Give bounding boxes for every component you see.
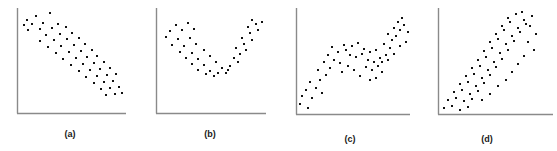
data-point bbox=[505, 43, 507, 45]
data-point bbox=[485, 56, 487, 58]
data-point bbox=[495, 66, 497, 68]
data-point bbox=[483, 50, 485, 52]
data-point bbox=[523, 55, 525, 57]
data-point bbox=[521, 11, 523, 13]
panel-d-axes bbox=[0, 0, 557, 120]
data-point bbox=[443, 107, 445, 109]
data-point bbox=[511, 71, 513, 73]
data-point bbox=[495, 33, 497, 35]
data-point bbox=[459, 83, 461, 85]
data-point bbox=[481, 99, 483, 101]
data-point bbox=[479, 65, 481, 67]
data-point bbox=[513, 40, 515, 42]
data-point bbox=[477, 90, 479, 92]
data-point bbox=[503, 29, 505, 31]
data-point bbox=[493, 61, 495, 63]
data-point bbox=[481, 77, 483, 79]
data-point bbox=[475, 85, 477, 87]
data-point bbox=[531, 15, 533, 17]
scatterplot-figure: (a) (b) (c) (d) bbox=[0, 0, 557, 151]
data-point bbox=[535, 33, 537, 35]
data-point bbox=[461, 89, 463, 91]
data-point bbox=[499, 52, 501, 54]
data-point bbox=[451, 105, 453, 107]
data-point bbox=[471, 98, 473, 100]
panel-d bbox=[0, 0, 557, 151]
data-point bbox=[517, 27, 519, 29]
data-point bbox=[501, 58, 503, 60]
data-point bbox=[483, 82, 485, 84]
data-point bbox=[467, 81, 469, 83]
data-point bbox=[501, 25, 503, 27]
panel-d-label: (d) bbox=[417, 134, 557, 144]
data-point bbox=[517, 63, 519, 65]
data-point bbox=[515, 13, 517, 15]
data-point bbox=[477, 59, 479, 61]
data-point bbox=[489, 74, 491, 76]
data-point bbox=[455, 97, 457, 99]
data-point bbox=[523, 19, 525, 21]
data-point bbox=[505, 79, 507, 81]
data-point bbox=[519, 31, 521, 33]
data-point bbox=[509, 21, 511, 23]
data-point bbox=[469, 93, 471, 95]
data-point bbox=[491, 47, 493, 49]
data-point bbox=[497, 38, 499, 40]
data-point bbox=[527, 41, 529, 43]
data-point bbox=[497, 85, 499, 87]
data-point bbox=[487, 69, 489, 71]
data-point bbox=[447, 99, 449, 101]
data-point bbox=[529, 25, 531, 27]
data-point bbox=[453, 91, 455, 93]
data-point bbox=[465, 75, 467, 77]
data-point bbox=[459, 109, 461, 111]
data-point bbox=[533, 49, 535, 51]
data-point bbox=[489, 41, 491, 43]
data-point bbox=[473, 73, 475, 75]
data-point bbox=[463, 100, 465, 102]
data-point bbox=[467, 106, 469, 108]
data-point bbox=[489, 93, 491, 95]
data-point bbox=[511, 35, 513, 37]
data-point bbox=[471, 67, 473, 69]
data-point bbox=[507, 49, 509, 51]
data-point bbox=[507, 17, 509, 19]
data-point bbox=[525, 23, 527, 25]
